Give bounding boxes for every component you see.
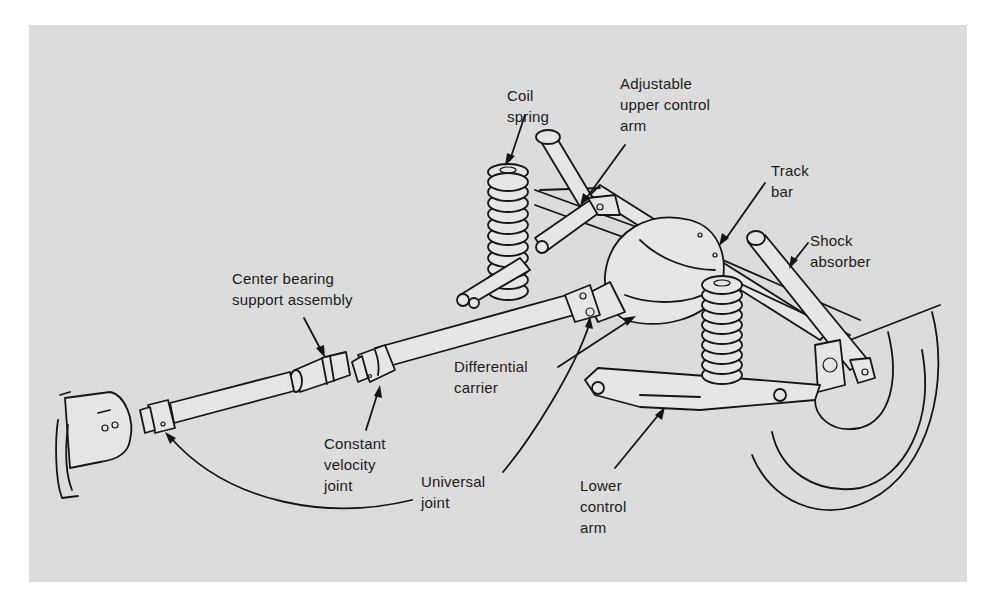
suspension-line-art xyxy=(0,0,988,606)
label-differential-carrier: Differential carrier xyxy=(454,356,528,398)
center-bearing-art xyxy=(290,352,350,392)
label-shock-absorber: Shock absorber xyxy=(810,230,871,272)
front-universal-joint-art xyxy=(140,400,175,433)
coil-spring-right xyxy=(702,276,742,384)
label-constant-velocity-joint: Constant velocity joint xyxy=(324,433,386,496)
label-track-bar: Track bar xyxy=(771,160,809,202)
label-adjustable-upper-control-arm: Adjustable upper control arm xyxy=(620,73,710,136)
transmission-housing xyxy=(56,392,131,498)
drive-shaft-front xyxy=(170,372,294,423)
label-coil-spring: Coil spring xyxy=(507,85,549,127)
label-universal-joint: Universal joint xyxy=(421,471,485,513)
label-center-bearing-support-assembly: Center bearing support assembly xyxy=(232,268,353,310)
label-lower-control-arm: Lower control arm xyxy=(580,475,626,538)
